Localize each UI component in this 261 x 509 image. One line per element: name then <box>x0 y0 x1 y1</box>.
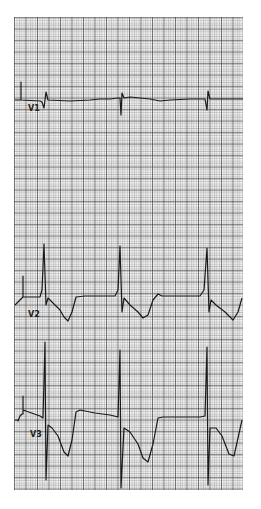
lead-label-v3: V3 <box>30 431 42 439</box>
ecg-grid <box>14 17 243 490</box>
lead-label-v2: V2 <box>28 311 40 319</box>
lead-label-v1: V1 <box>28 105 40 113</box>
